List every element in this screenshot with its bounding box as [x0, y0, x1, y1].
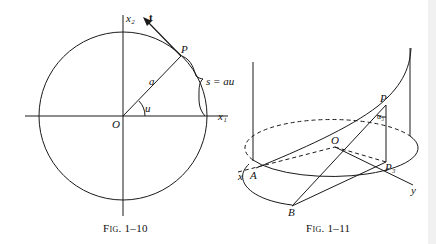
arc-length-label: s = au: [206, 76, 234, 87]
radius-label: a: [149, 76, 155, 87]
alpha3-label: α₃: [377, 113, 384, 121]
base-ellipse-back: [245, 120, 410, 160]
helix-curve: [256, 48, 411, 168]
tangent-line-p-to-b: [292, 105, 386, 206]
x-axis-label: x: [238, 171, 243, 182]
y-axis-line: [335, 147, 413, 185]
angle-u-label: u: [145, 103, 151, 114]
helix-point-p-label: P: [380, 93, 387, 104]
figures-drawing: [0, 0, 436, 244]
origin-label: O: [112, 119, 120, 130]
fig-1-10-caption: Fig. 1–10: [103, 223, 148, 234]
x1-axis-label: x₁: [218, 111, 227, 122]
fig-1-11-drawing: [238, 48, 418, 207]
figure-page: x₂ t P a u O s = au x₁ Fig. 1–10 P α₃ O …: [0, 0, 436, 244]
p3-label: P₃: [385, 162, 396, 173]
point-b-label: B: [288, 207, 295, 218]
fig-1-10-drawing: [25, 15, 228, 216]
tangent-vector: [145, 19, 181, 56]
point-p-label: P: [181, 44, 188, 55]
fig-1-11-caption: Fig. 1–11: [306, 223, 350, 234]
tangent-label: t: [149, 12, 153, 23]
y-axis-label: y: [411, 185, 416, 196]
x2-axis-label: x₂: [126, 13, 135, 24]
origin-o-label: O: [331, 135, 339, 146]
point-a-label: A: [250, 170, 257, 181]
